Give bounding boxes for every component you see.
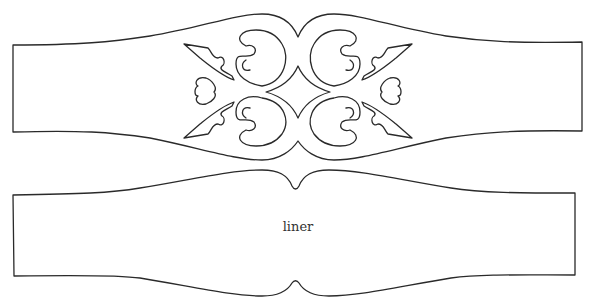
template-drawing xyxy=(0,0,589,305)
ornament xyxy=(184,30,412,146)
decorative-band xyxy=(13,14,582,160)
template-canvas: liner xyxy=(0,0,589,305)
liner-label: liner xyxy=(270,219,326,234)
